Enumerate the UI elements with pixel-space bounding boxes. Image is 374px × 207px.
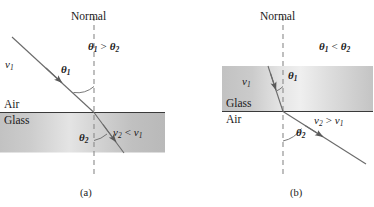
panel-a-angle-refraction-label: θ2 xyxy=(79,132,88,143)
panel-a-speed-operator: < xyxy=(122,126,134,138)
panel-b-angle-refraction-label: θ2 xyxy=(296,127,305,138)
panel-a-relation-sub1: 1 xyxy=(94,45,98,54)
panel-b-medium-lower-label: Air xyxy=(226,114,241,126)
panel-a-relation-operator: > xyxy=(97,40,109,52)
panel-b-angle-incidence-label: θ1 xyxy=(288,70,297,81)
panel-a-incident-speed-label: v1 xyxy=(5,59,14,70)
panel-a-caption: (a) xyxy=(80,188,92,199)
panel-b-relation-sub2: 2 xyxy=(346,45,350,54)
panel-a-theta1-subscript: 1 xyxy=(67,68,71,77)
panel-a-medium-lower-label: Glass xyxy=(4,115,30,127)
panel-b-speed-sub1: 1 xyxy=(340,119,344,128)
panel-b-speed-v1: v xyxy=(335,114,340,126)
panel-b-theta2-symbol: θ xyxy=(296,126,302,138)
panel-a-graphics xyxy=(0,16,165,178)
refraction-figure: Normal v1 θ1 θ1>θ2 Air Glass θ2 v2<v1 (a… xyxy=(0,0,374,207)
panel-b-angle-relation: θ1<θ2 xyxy=(319,41,350,52)
panel-a-angle-incidence-arc xyxy=(74,87,95,93)
panel-b-speed-operator: > xyxy=(323,114,335,126)
panel-a-normal-label: Normal xyxy=(71,11,106,23)
panel-a-incident-speed-subscript: 1 xyxy=(10,63,14,72)
panel-b-normal-label: Normal xyxy=(260,11,295,23)
panel-a-medium-upper-label: Air xyxy=(4,99,19,111)
panel-b-theta2-subscript: 2 xyxy=(302,131,306,140)
panel-b-caption: (b) xyxy=(290,188,302,199)
panel-b-theta1-subscript: 1 xyxy=(294,74,298,83)
panel-b-medium-upper-label: Glass xyxy=(226,98,252,110)
panel-b-relation-operator: < xyxy=(328,40,340,52)
panel-a-speed-sub2: 2 xyxy=(118,131,122,140)
panel-b-theta1-symbol: θ xyxy=(288,69,294,81)
panel-a-incident-ray-arrow xyxy=(46,68,62,83)
panel-a-angle-incidence-label: θ1 xyxy=(61,64,70,75)
refraction-diagram-canvas xyxy=(0,0,374,207)
panel-a-theta1-symbol: θ xyxy=(61,63,67,75)
panel-a-speed-v1: v xyxy=(134,126,139,138)
panel-a-speed-relation: v2<v1 xyxy=(113,127,142,138)
panel-a-speed-sub1: 1 xyxy=(139,131,143,140)
panel-a-relation-sub2: 2 xyxy=(115,45,119,54)
panel-b-speed-relation: v2>v1 xyxy=(314,115,343,126)
panel-a-relation-theta1: θ xyxy=(88,40,94,52)
panel-b-relation-sub1: 1 xyxy=(325,45,329,54)
panel-b-incident-speed-subscript: 1 xyxy=(247,80,251,89)
panel-b-relation-theta1: θ xyxy=(319,40,325,52)
panel-a-theta2-subscript: 2 xyxy=(85,136,89,145)
panel-a-theta2-symbol: θ xyxy=(79,131,85,143)
panel-b-speed-sub2: 2 xyxy=(319,119,323,128)
panel-a-angle-relation: θ1>θ2 xyxy=(88,41,119,52)
panel-b-incident-speed-label: v1 xyxy=(242,76,251,87)
